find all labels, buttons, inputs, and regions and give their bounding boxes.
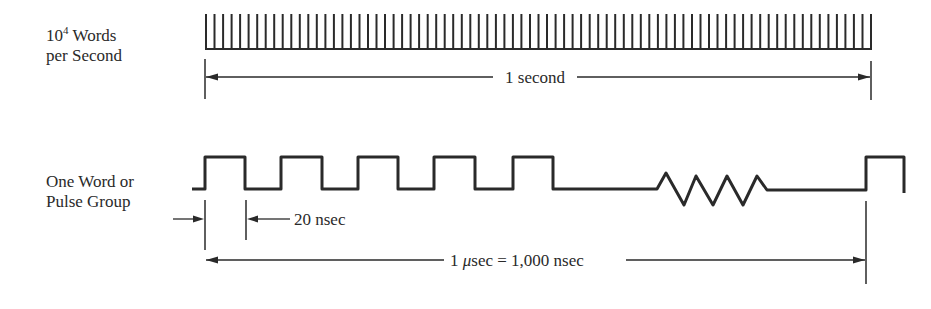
arrow-right-icon: [858, 74, 870, 81]
one-second-label: 1 second: [505, 68, 565, 87]
word-tick-comb: [206, 14, 871, 49]
one-microsecond-label: 1 μsec = 1,000 nsec: [450, 251, 584, 270]
arrow-right-icon: [853, 257, 865, 264]
pulse-width-dimension: [173, 200, 290, 250]
arrow-left-icon: [247, 216, 258, 223]
pulse-width-label: 20 nsec: [294, 210, 346, 229]
pulse-waveform: [192, 157, 904, 205]
timing-diagram: 1 second 20 nsec 1 μsec = 1,000 nsec: [0, 0, 931, 309]
arrow-left-icon: [206, 74, 218, 81]
arrow-left-icon: [206, 257, 218, 264]
arrow-right-icon: [193, 216, 204, 223]
